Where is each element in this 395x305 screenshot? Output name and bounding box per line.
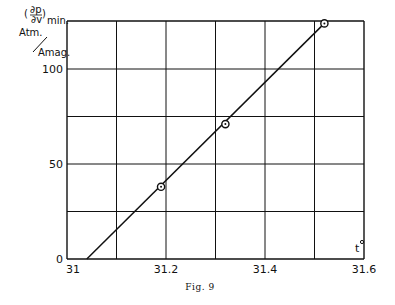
x-tick-label: 31.4 xyxy=(253,263,278,276)
figure-caption: Fig. 9 xyxy=(185,282,214,292)
series xyxy=(87,20,328,259)
tick-labels: 3131.231.431.6050100 xyxy=(42,63,376,276)
ylabel-unit-bottom: Amag. xyxy=(38,47,70,58)
svg-text:): ) xyxy=(42,8,46,19)
x-tick-label: 31 xyxy=(66,263,80,276)
data-point xyxy=(222,121,229,128)
data-point xyxy=(157,183,164,190)
x-tick-label: 31.6 xyxy=(352,263,377,276)
ylabel-subscript: min. xyxy=(47,15,69,26)
x-tick-label: 31.2 xyxy=(154,263,179,276)
y-tick-label: 50 xyxy=(49,158,63,171)
xlabel: t xyxy=(355,242,360,255)
fit-line xyxy=(87,23,325,259)
svg-text:(: ( xyxy=(24,8,28,19)
ylabel-unit-top: Atm. xyxy=(19,27,43,38)
y-tick-label: 100 xyxy=(42,63,63,76)
data-point xyxy=(321,20,328,27)
ylabel-denominator: ∂v xyxy=(31,14,42,25)
x-axis-label: t xyxy=(355,240,364,255)
y-axis-label: ( ∂p ∂v ) min. Atm. Amag. xyxy=(19,4,70,58)
grid xyxy=(67,21,364,259)
y-tick-label: 0 xyxy=(56,253,63,266)
chart: 3131.231.431.6050100 ( ∂p ∂v ) min. Atm.… xyxy=(0,0,395,305)
